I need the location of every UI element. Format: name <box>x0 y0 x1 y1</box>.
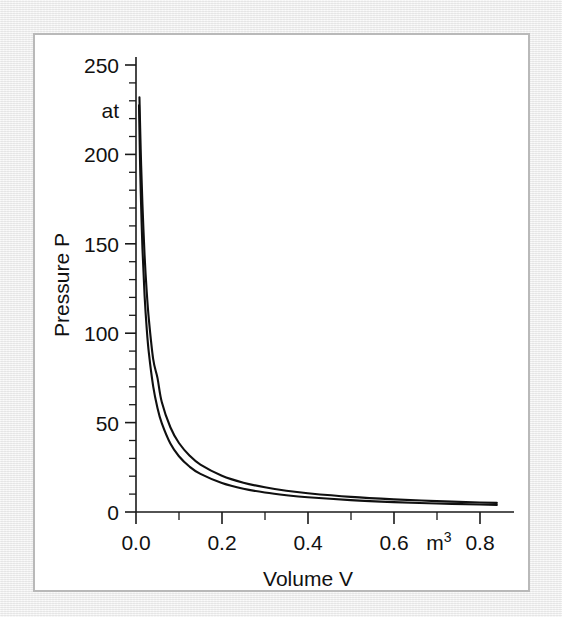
pv-diagram-plot: 0 50 100 150 200 250 at 0.0 0.2 0.4 0.6 … <box>35 35 528 590</box>
y-tick-label-100: 100 <box>84 322 119 345</box>
x-tick-label-0.2: 0.2 <box>207 531 236 554</box>
axes-group <box>136 57 514 512</box>
x-axis-unit-label: m3 <box>426 529 452 554</box>
x-tick-label-0.8: 0.8 <box>465 531 494 554</box>
y-tick-labels: 0 50 100 150 200 250 at <box>84 54 119 524</box>
x-axis-ticks <box>136 512 480 524</box>
x-tick-labels: 0.0 0.2 0.4 0.6 0.8 m3 <box>121 529 494 554</box>
y-tick-label-200: 200 <box>84 143 119 166</box>
x-axis-title: Volume V <box>263 567 353 590</box>
x-axis-unit-base: m <box>426 531 444 554</box>
figure-frame: 0 50 100 150 200 250 at 0.0 0.2 0.4 0.6 … <box>33 33 530 592</box>
y-axis-title: Pressure P <box>50 233 73 337</box>
data-curves <box>139 97 497 505</box>
y-tick-label-150: 150 <box>84 233 119 256</box>
curve-isotherm-upper <box>139 97 496 503</box>
x-tick-label-0.6: 0.6 <box>379 531 408 554</box>
x-tick-label-0.0: 0.0 <box>121 531 150 554</box>
y-axis-unit-label: at <box>101 99 119 122</box>
x-axis-unit-exponent: 3 <box>444 529 452 545</box>
x-tick-label-0.4: 0.4 <box>293 531 323 554</box>
y-tick-label-0: 0 <box>107 501 119 524</box>
curve-isotherm-lower <box>139 105 497 505</box>
y-axis-ticks <box>125 65 136 512</box>
y-tick-label-50: 50 <box>96 412 119 435</box>
y-tick-label-250: 250 <box>84 54 119 77</box>
